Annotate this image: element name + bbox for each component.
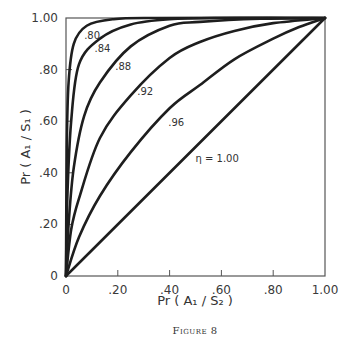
x-tick-label: .80 <box>264 283 283 297</box>
y-tick-label: .80 <box>39 63 58 77</box>
x-tick-label: .20 <box>108 283 127 297</box>
curve-labels: .80.84.88.92.96η = 1.00 <box>84 30 239 165</box>
y-tick-label: .40 <box>39 166 58 180</box>
y-axis-title: Pr ( A₁ / S₁ ) <box>18 109 33 185</box>
curve <box>66 18 325 276</box>
curve-label: .80 <box>84 30 100 41</box>
curve-label: η = 1.00 <box>196 153 239 164</box>
curves <box>66 18 325 276</box>
x-tick-label: 1.00 <box>312 283 339 297</box>
x-tick-label: 0 <box>62 283 70 297</box>
curve-label: .96 <box>168 117 184 128</box>
x-axis-title: Pr ( A₁ / S₂ ) <box>157 293 233 308</box>
y-tick-label: .60 <box>39 114 58 128</box>
roc-chart: 0.20.40.60.801.000.20.40.60.801.00 .80.8… <box>0 0 346 344</box>
figure-caption: Figure 8 <box>172 325 217 336</box>
curve-label: .92 <box>137 86 153 97</box>
y-tick-label: .20 <box>39 217 58 231</box>
y-tick-label: 1.00 <box>31 11 58 25</box>
curve-label: .88 <box>115 61 131 72</box>
axis-ticks: 0.20.40.60.801.000.20.40.60.801.00 <box>31 11 338 297</box>
curve-label: .84 <box>94 43 110 54</box>
y-tick-label: 0 <box>50 269 58 283</box>
